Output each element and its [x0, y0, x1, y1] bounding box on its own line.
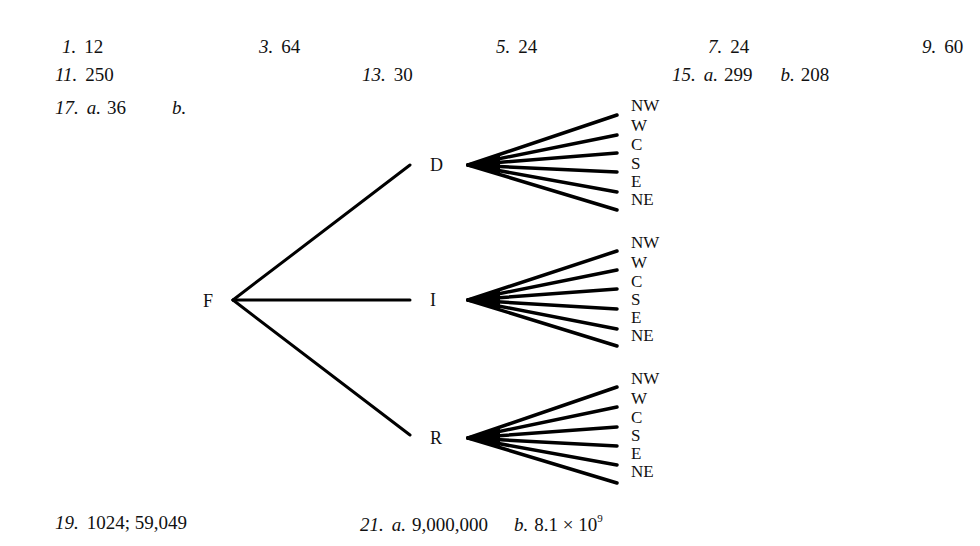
leaf-label: S: [631, 427, 640, 444]
leaf-label: NW: [631, 234, 659, 251]
leaf-label: NW: [631, 370, 659, 387]
leaf-label: NE: [631, 191, 654, 208]
answer-21: 21.a.9,000,000b.8.1 × 109: [360, 513, 603, 534]
leaf-label: S: [631, 155, 640, 172]
leaf-label: C: [631, 273, 642, 290]
tree-root-node: F: [203, 292, 213, 310]
leaf-label: W: [631, 117, 647, 134]
tree-diagram: [0, 0, 980, 546]
leaf-label: W: [631, 390, 647, 407]
part-a-label: a.: [392, 514, 406, 535]
leaf-label: W: [631, 254, 647, 271]
part-a-value: 9,000,000: [412, 514, 488, 535]
tree-node-d: D: [430, 156, 443, 174]
leaf-label: E: [631, 173, 641, 190]
answer-19: 19.1024; 59,049: [55, 513, 187, 532]
leaf-label: NE: [631, 327, 654, 344]
answer-value: 1024; 59,049: [87, 512, 187, 533]
leaf-label: C: [631, 409, 642, 426]
leaf-label: NE: [631, 463, 654, 480]
tree-node-i: I: [430, 291, 436, 309]
tree-node-r: R: [430, 429, 442, 447]
leaf-label: E: [631, 309, 641, 326]
part-b-label: b.: [514, 514, 528, 535]
answer-number: 19.: [55, 512, 79, 533]
leaf-label: S: [631, 291, 640, 308]
leaf-label: E: [631, 445, 641, 462]
exponent: 9: [597, 512, 603, 524]
part-b-value: 8.1 × 10: [534, 514, 597, 535]
leaf-label: NW: [631, 97, 659, 114]
leaf-label: C: [631, 136, 642, 153]
answer-number: 21.: [360, 514, 384, 535]
